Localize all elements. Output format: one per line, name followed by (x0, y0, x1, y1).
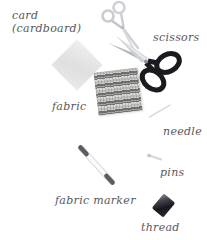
card-label-line2: (cardboard) (12, 22, 81, 35)
card-label: card (cardboard) (12, 9, 81, 35)
needle-label: needle (163, 125, 202, 138)
fabric-marker-image (74, 142, 119, 188)
fabric-swatch-image (94, 67, 143, 115)
card-label-line1: card (12, 9, 81, 22)
pins-label: pins (160, 166, 185, 179)
thread-spool-image (152, 193, 176, 217)
fabric-marker-label: fabric marker (55, 194, 136, 207)
materials-figure: card (cardboard) scissors fabric needle … (0, 0, 207, 240)
needle-image (148, 102, 172, 120)
thread-label: thread (141, 221, 180, 234)
pin-image (146, 148, 164, 164)
fabric-label: fabric (52, 100, 86, 113)
